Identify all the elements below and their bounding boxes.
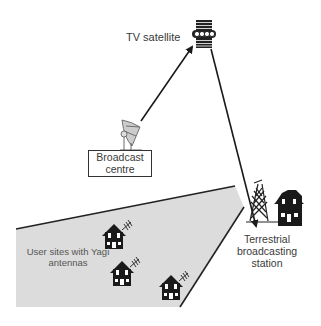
terrestrial-station-label: Terrestrial broadcasting station (232, 233, 302, 269)
satellite-label: TV satellite (126, 31, 180, 43)
broadcast-centre-label-line1: Broadcast (88, 151, 152, 163)
broadcast-centre-label-line2: centre (88, 163, 152, 175)
user-sites-label: User sites with Yagi antennas (22, 246, 114, 268)
uplink-arrow (141, 47, 192, 121)
transmission-tower-icon (246, 180, 280, 222)
terrestrial-label-line3: station (232, 257, 302, 269)
satellite-dish-icon (120, 120, 142, 150)
terrestrial-label-line1: Terrestrial (232, 233, 302, 245)
broadcast-centre-label: Broadcast centre (88, 151, 152, 175)
broadcast-diagram (0, 0, 321, 326)
terrestrial-label-line2: broadcasting (232, 245, 302, 257)
station-house-icon (274, 190, 304, 226)
satellite-icon (192, 20, 216, 48)
user-sites-label-line2: antennas (22, 257, 114, 268)
user-sites-label-line1: User sites with Yagi (22, 246, 114, 257)
